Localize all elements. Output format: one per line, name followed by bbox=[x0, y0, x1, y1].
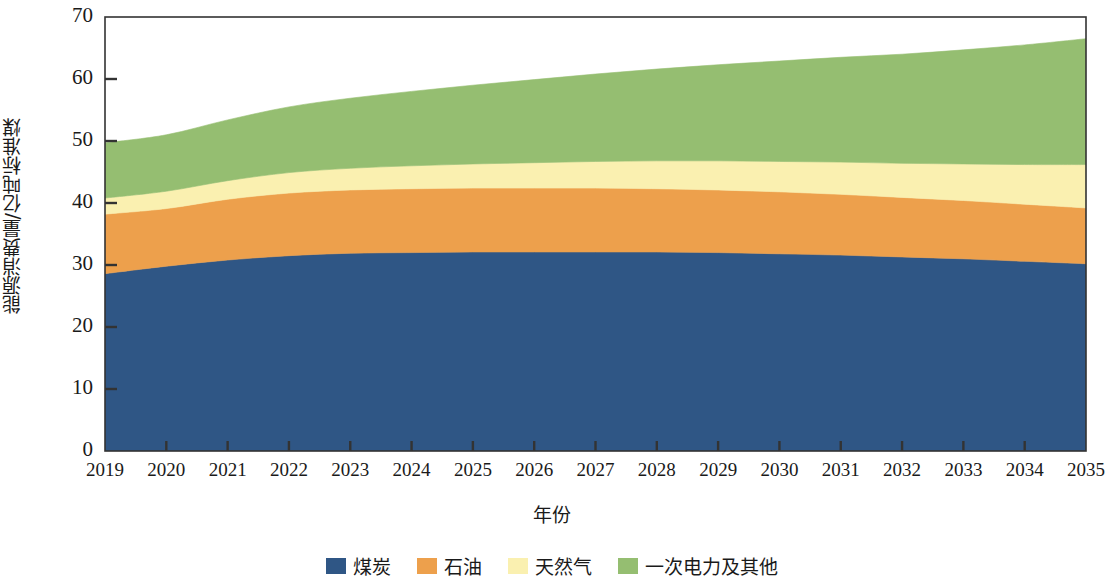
x-axis-title: 年份 bbox=[0, 500, 1103, 527]
legend-swatch-icon bbox=[417, 558, 437, 574]
legend-item: 天然气 bbox=[508, 552, 592, 579]
area-series-1 bbox=[105, 252, 1086, 451]
legend-swatch-icon bbox=[508, 558, 528, 574]
legend-item: 一次电力及其他 bbox=[618, 552, 778, 579]
x-tick-label: 2035 bbox=[1051, 459, 1109, 481]
x-tick-label: 2030 bbox=[744, 459, 814, 481]
legend-swatch-icon bbox=[618, 558, 638, 574]
y-tick-label: 40 bbox=[49, 189, 93, 214]
x-tick-label: 2033 bbox=[928, 459, 998, 481]
x-tick-label: 2031 bbox=[806, 459, 876, 481]
y-tick-label: 70 bbox=[49, 3, 93, 28]
x-tick-label: 2026 bbox=[499, 459, 569, 481]
y-tick-label: 60 bbox=[49, 65, 93, 90]
legend-label: 一次电力及其他 bbox=[645, 552, 778, 579]
x-tick-label: 2024 bbox=[377, 459, 447, 481]
legend-swatch-icon bbox=[326, 558, 346, 574]
y-tick-label: 50 bbox=[49, 127, 93, 152]
x-tick-label: 2028 bbox=[622, 459, 692, 481]
x-tick-label: 2032 bbox=[867, 459, 937, 481]
x-tick-label: 2023 bbox=[315, 459, 385, 481]
x-tick-label: 2029 bbox=[683, 459, 753, 481]
x-tick-label: 2025 bbox=[438, 459, 508, 481]
x-tick-label: 2022 bbox=[254, 459, 324, 481]
x-tick-label: 2021 bbox=[193, 459, 263, 481]
legend-label: 煤炭 bbox=[353, 552, 391, 579]
y-tick-label: 30 bbox=[49, 251, 93, 276]
x-tick-label: 2019 bbox=[70, 459, 140, 481]
chart-legend: 煤炭石油天然气一次电力及其他 bbox=[0, 552, 1103, 579]
y-tick-label: 10 bbox=[49, 375, 93, 400]
y-tick-label: 20 bbox=[49, 313, 93, 338]
legend-label: 天然气 bbox=[535, 552, 592, 579]
x-tick-label: 2020 bbox=[131, 459, 201, 481]
x-tick-label: 2034 bbox=[990, 459, 1060, 481]
legend-item: 煤炭 bbox=[326, 552, 391, 579]
x-tick-label: 2027 bbox=[561, 459, 631, 481]
legend-item: 石油 bbox=[417, 552, 482, 579]
legend-label: 石油 bbox=[444, 552, 482, 579]
